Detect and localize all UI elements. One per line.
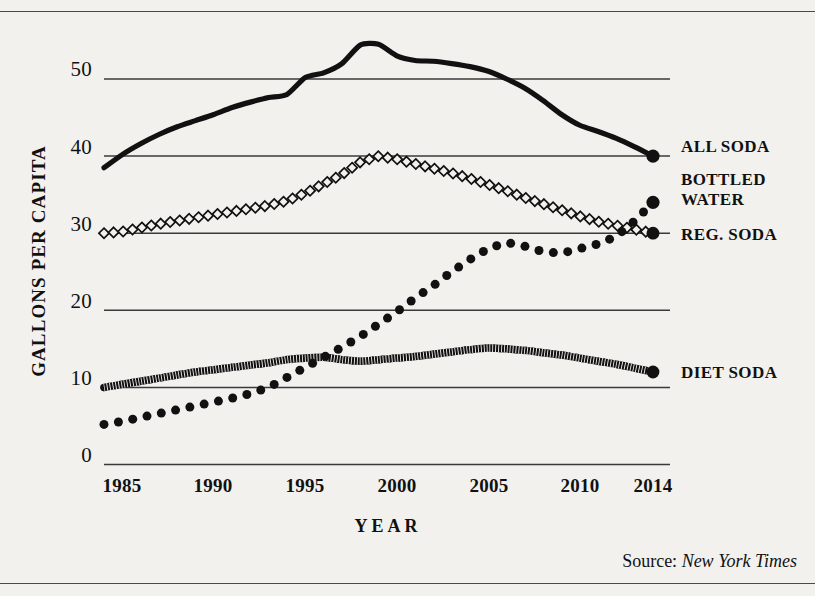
endpoint-diet-soda (647, 366, 660, 379)
endpoint-reg-soda (647, 227, 660, 240)
chart-figure: GALLONS PER CAPITA YEAR 50 40 30 20 10 0… (0, 0, 815, 596)
series-bottled-water (100, 196, 660, 429)
series-reg-soda (99, 151, 659, 240)
endpoint-bottled-water (646, 196, 659, 209)
series-diet-soda (104, 348, 659, 387)
series-all-soda (104, 43, 660, 167)
plot-canvas (0, 0, 815, 596)
endpoint-all-soda (646, 150, 659, 163)
series-layer (99, 43, 660, 428)
